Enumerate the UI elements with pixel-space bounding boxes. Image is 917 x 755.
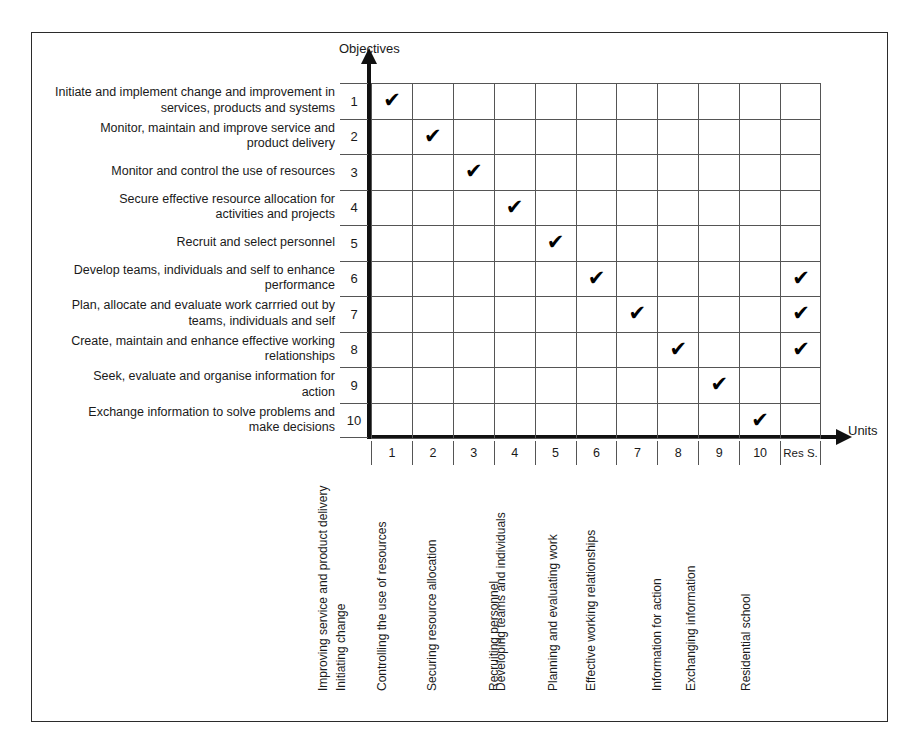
matrix-cell[interactable] [739,297,780,333]
matrix-cell[interactable]: ✔ [453,155,494,191]
matrix-cell[interactable] [535,120,576,156]
matrix-cell[interactable] [535,262,576,298]
matrix-cell[interactable] [576,155,617,191]
matrix-cell[interactable] [698,262,739,298]
matrix-cell[interactable] [371,404,412,440]
matrix-cell[interactable] [453,333,494,369]
matrix-cell[interactable] [616,226,657,262]
matrix-cell[interactable] [371,120,412,156]
matrix-cell[interactable] [412,155,453,191]
matrix-cell[interactable] [739,84,780,120]
matrix-cell[interactable] [494,404,535,440]
matrix-cell[interactable]: ✔ [576,262,617,298]
matrix-cell[interactable] [576,297,617,333]
matrix-cell[interactable] [576,404,617,440]
matrix-cell[interactable] [535,84,576,120]
matrix-cell[interactable] [616,84,657,120]
matrix-cell[interactable] [494,333,535,369]
matrix-cell[interactable] [616,368,657,404]
matrix-cell[interactable] [698,297,739,333]
matrix-cell[interactable] [576,120,617,156]
matrix-cell[interactable] [780,84,821,120]
matrix-cell[interactable] [576,191,617,227]
matrix-cell[interactable] [494,155,535,191]
matrix-cell[interactable] [739,262,780,298]
matrix-cell[interactable] [616,120,657,156]
matrix-cell[interactable] [657,191,698,227]
matrix-cell[interactable] [535,404,576,440]
matrix-cell[interactable]: ✔ [494,191,535,227]
matrix-cell[interactable] [412,368,453,404]
matrix-cell[interactable]: ✔ [698,368,739,404]
matrix-cell[interactable] [739,226,780,262]
matrix-cell[interactable] [535,368,576,404]
matrix-cell[interactable] [494,226,535,262]
matrix-cell[interactable] [616,155,657,191]
matrix-cell[interactable] [494,84,535,120]
matrix-cell[interactable] [657,262,698,298]
matrix-cell[interactable] [698,191,739,227]
matrix-cell[interactable] [780,226,821,262]
matrix-cell[interactable] [371,155,412,191]
matrix-cell[interactable] [412,262,453,298]
matrix-cell[interactable] [371,368,412,404]
matrix-cell[interactable] [453,404,494,440]
matrix-cell[interactable] [698,120,739,156]
matrix-cell[interactable] [698,404,739,440]
matrix-cell[interactable] [535,155,576,191]
matrix-cell[interactable]: ✔ [371,84,412,120]
matrix-cell[interactable] [371,262,412,298]
matrix-cell[interactable] [453,191,494,227]
matrix-cell[interactable] [371,297,412,333]
matrix-cell[interactable] [739,155,780,191]
matrix-cell[interactable] [412,191,453,227]
matrix-cell[interactable] [494,297,535,333]
matrix-cell[interactable] [698,155,739,191]
matrix-cell[interactable] [616,191,657,227]
matrix-cell[interactable] [780,404,821,440]
matrix-cell[interactable] [576,84,617,120]
matrix-cell[interactable] [780,120,821,156]
matrix-cell[interactable] [371,333,412,369]
matrix-cell[interactable]: ✔ [739,404,780,440]
matrix-cell[interactable]: ✔ [412,120,453,156]
matrix-cell[interactable] [453,84,494,120]
matrix-cell[interactable] [739,191,780,227]
matrix-cell[interactable] [739,120,780,156]
matrix-cell[interactable] [371,226,412,262]
matrix-cell[interactable] [739,368,780,404]
matrix-cell[interactable] [494,368,535,404]
matrix-cell[interactable] [412,84,453,120]
matrix-cell[interactable] [494,120,535,156]
matrix-cell[interactable] [576,368,617,404]
matrix-cell[interactable] [412,404,453,440]
matrix-cell[interactable] [453,262,494,298]
matrix-cell[interactable] [657,297,698,333]
matrix-cell[interactable]: ✔ [780,333,821,369]
matrix-cell[interactable] [453,226,494,262]
matrix-cell[interactable] [657,226,698,262]
matrix-cell[interactable] [657,84,698,120]
matrix-cell[interactable] [780,368,821,404]
matrix-cell[interactable] [739,333,780,369]
matrix-cell[interactable] [780,191,821,227]
matrix-cell[interactable] [412,333,453,369]
matrix-cell[interactable] [412,226,453,262]
matrix-cell[interactable] [535,191,576,227]
matrix-cell[interactable] [780,155,821,191]
matrix-cell[interactable] [412,297,453,333]
matrix-cell[interactable] [616,404,657,440]
matrix-cell[interactable] [616,262,657,298]
matrix-cell[interactable] [657,120,698,156]
matrix-cell[interactable] [657,368,698,404]
matrix-cell[interactable] [616,333,657,369]
matrix-cell[interactable] [371,191,412,227]
matrix-cell[interactable]: ✔ [780,262,821,298]
matrix-cell[interactable] [698,226,739,262]
matrix-cell[interactable] [453,297,494,333]
matrix-cell[interactable] [535,333,576,369]
matrix-cell[interactable] [453,368,494,404]
matrix-cell[interactable]: ✔ [535,226,576,262]
matrix-cell[interactable]: ✔ [616,297,657,333]
matrix-cell[interactable] [698,84,739,120]
